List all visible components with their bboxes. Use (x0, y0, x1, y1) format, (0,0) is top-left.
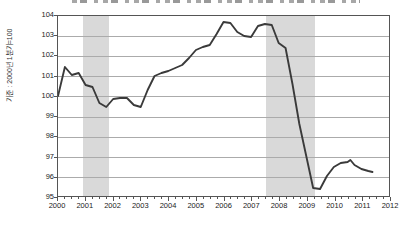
x-tick-label: 2009 (293, 201, 321, 210)
x-tick-mark-quarter (355, 197, 356, 199)
x-tick-mark-quarter (175, 197, 176, 199)
x-tick-mark-year (196, 197, 197, 201)
x-tick-mark-quarter (64, 197, 65, 199)
x-tick-mark-quarter (265, 197, 266, 199)
y-tick-label: 96 (28, 173, 54, 181)
x-tick-label: 2002 (99, 201, 127, 210)
plot-area (57, 15, 390, 197)
x-tick-mark-year (362, 197, 363, 201)
x-tick-label: 2011 (348, 201, 376, 210)
x-tick-mark-quarter (314, 197, 315, 199)
x-tick-mark-year (390, 197, 391, 201)
x-tick-mark-year (335, 197, 336, 201)
x-tick-mark-quarter (119, 197, 120, 199)
x-tick-label: 2004 (154, 201, 182, 210)
x-tick-mark-year (168, 197, 169, 201)
x-tick-mark-quarter (258, 197, 259, 199)
x-tick-mark-quarter (147, 197, 148, 199)
x-tick-mark-quarter (92, 197, 93, 199)
y-tick-label: 100 (28, 92, 54, 100)
x-tick-mark-year (113, 197, 114, 201)
x-tick-mark-year (224, 197, 225, 201)
x-tick-label: 2012 (376, 201, 404, 210)
x-tick-label: 2001 (71, 201, 99, 210)
x-tick-mark-quarter (272, 197, 273, 199)
y-tick-label: 99 (28, 112, 54, 120)
x-tick-label: 2008 (265, 201, 293, 210)
y-tick-label: 101 (28, 72, 54, 80)
y-axis-label: 기준 : 2000년 1분기=100 (4, 13, 14, 117)
series-line (58, 22, 372, 189)
x-tick-label: 2005 (182, 201, 210, 210)
clipped-title-strip (72, 0, 360, 3)
y-tick-label: 97 (28, 153, 54, 161)
x-tick-mark-quarter (154, 197, 155, 199)
x-tick-mark-quarter (348, 197, 349, 199)
x-tick-mark-quarter (182, 197, 183, 199)
x-tick-mark-quarter (133, 197, 134, 199)
x-tick-mark-quarter (78, 197, 79, 199)
x-tick-mark-year (85, 197, 86, 201)
x-tick-label: 2003 (126, 201, 154, 210)
x-tick-mark-quarter (300, 197, 301, 199)
x-tick-mark-quarter (244, 197, 245, 199)
x-tick-label: 2010 (321, 201, 349, 210)
x-tick-mark-quarter (126, 197, 127, 199)
x-tick-mark-year (307, 197, 308, 201)
x-tick-mark-year (57, 197, 58, 201)
x-tick-mark-year (279, 197, 280, 201)
x-tick-mark-quarter (376, 197, 377, 199)
y-tick-label: 103 (28, 31, 54, 39)
x-tick-mark-year (140, 197, 141, 201)
x-tick-mark-quarter (293, 197, 294, 199)
x-tick-mark-quarter (217, 197, 218, 199)
x-tick-mark-quarter (286, 197, 287, 199)
x-tick-mark-quarter (369, 197, 370, 199)
y-tick-label: 104 (28, 11, 54, 19)
x-tick-mark-quarter (189, 197, 190, 199)
x-tick-mark-quarter (99, 197, 100, 199)
x-tick-mark-quarter (106, 197, 107, 199)
chart-canvas: 기준 : 2000년 1분기=100 104103102101100999897… (0, 0, 409, 228)
series-line-layer (58, 16, 389, 196)
x-tick-mark-quarter (71, 197, 72, 199)
y-tick-label: 102 (28, 51, 54, 59)
x-tick-mark-quarter (230, 197, 231, 199)
x-tick-label: 2000 (43, 201, 71, 210)
x-tick-label: 2006 (210, 201, 238, 210)
x-tick-mark-quarter (328, 197, 329, 199)
x-tick-mark-quarter (341, 197, 342, 199)
x-tick-mark-quarter (161, 197, 162, 199)
x-tick-mark-quarter (203, 197, 204, 199)
x-tick-mark-year (251, 197, 252, 201)
y-tick-label: 98 (28, 132, 54, 140)
y-tick-label: 95 (28, 193, 54, 201)
x-tick-mark-quarter (321, 197, 322, 199)
x-tick-mark-quarter (383, 197, 384, 199)
x-tick-mark-quarter (237, 197, 238, 199)
x-tick-label: 2007 (237, 201, 265, 210)
x-tick-mark-quarter (210, 197, 211, 199)
